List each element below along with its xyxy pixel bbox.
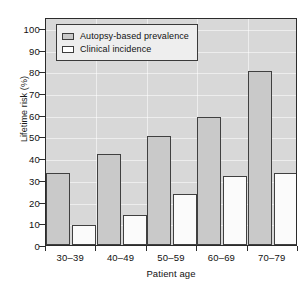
legend-swatch-icon [62, 33, 74, 40]
y-tick-label: 20 [8, 197, 40, 208]
y-tick-label: 40 [8, 154, 40, 165]
x-tick-label: 30–39 [56, 252, 83, 263]
y-tick-label: 10 [8, 219, 40, 230]
y-tick-label: 30 [8, 175, 40, 186]
x-tick-mark [196, 246, 197, 251]
bar-autopsy-based-prevalence [147, 136, 171, 245]
x-axis-title: Patient age [45, 268, 297, 279]
y-tick-mark [39, 72, 45, 73]
y-tick-mark [39, 203, 45, 204]
bar-clinical-incidence [274, 173, 297, 245]
bar-autopsy-based-prevalence [97, 154, 121, 245]
y-tick-mark [39, 181, 45, 182]
x-tick-mark [247, 246, 248, 251]
bar-autopsy-based-prevalence [46, 173, 70, 245]
y-tick-label: 60 [8, 110, 40, 121]
bar-autopsy-based-prevalence [197, 117, 221, 245]
y-tick-mark [39, 94, 45, 95]
legend-entry: Clinical incidence [62, 43, 189, 55]
y-tick-label: 0 [8, 241, 40, 252]
x-tick-mark [45, 246, 46, 251]
y-tick-label: 90 [8, 45, 40, 56]
y-tick-mark [39, 159, 45, 160]
x-tick-mark [95, 246, 96, 251]
y-tick-mark [39, 51, 45, 52]
bar-clinical-incidence [72, 225, 96, 245]
bar-clinical-incidence [123, 215, 147, 245]
bar-chart-figure: Lifetime risk (%) 0102030405060708090100… [0, 0, 308, 290]
y-tick-label: 80 [8, 67, 40, 78]
y-tick-label: 50 [8, 132, 40, 143]
bar-clinical-incidence [223, 176, 247, 245]
x-tick-label: 70–79 [258, 252, 285, 263]
x-tick-label: 40–49 [107, 252, 134, 263]
y-tick-label: 70 [8, 89, 40, 100]
y-tick-mark [39, 137, 45, 138]
legend-label: Clinical incidence [80, 44, 151, 54]
x-tick-label: 50–59 [157, 252, 184, 263]
y-tick-mark [39, 29, 45, 30]
x-axis-tick-labels: 30–3940–4950–5960–6970–79 [45, 252, 297, 268]
y-tick-mark [39, 116, 45, 117]
x-tick-mark [297, 246, 298, 251]
y-tick-label: 100 [8, 23, 40, 34]
x-tick-mark [146, 246, 147, 251]
y-tick-mark [39, 224, 45, 225]
legend-label: Autopsy-based prevalence [80, 31, 189, 41]
legend-swatch-icon [62, 46, 74, 53]
bar-clinical-incidence [173, 194, 197, 245]
bar-autopsy-based-prevalence [248, 71, 272, 245]
legend-entry: Autopsy-based prevalence [62, 30, 189, 42]
y-axis-tick-labels: 0102030405060708090100 [8, 18, 40, 246]
x-tick-label: 60–69 [208, 252, 235, 263]
chart-legend: Autopsy-based prevalence Clinical incide… [56, 24, 198, 61]
